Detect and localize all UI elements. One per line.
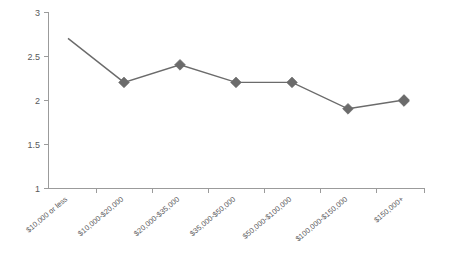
x-tick-label-6: $100,000-$150,000 [294,195,350,244]
data-point-7 [399,96,410,107]
y-tick-label-1: 1 [35,184,40,194]
line-chart: 3 2.5 2 1.5 1 [0,0,449,262]
data-point-5 [343,103,354,114]
data-series-line [68,38,404,108]
y-tick-label-2-5: 2.5 [27,52,40,62]
x-axis-tick-labels: $10,000 or less $10,000-$20,000 $20,000-… [24,194,406,243]
x-tick-label-5: $50,000-$100,000 [241,195,293,241]
x-tick-label-4: $35,000-$50,000 [188,195,237,238]
y-tick-label-2: 2 [35,96,40,106]
y-axis-tick-labels: 3 2.5 2 1.5 1 [27,8,40,194]
y-tick-label-1-5: 1.5 [27,140,40,150]
chart-canvas: 3 2.5 2 1.5 1 [0,0,449,262]
y-tick-label-3: 3 [35,8,40,18]
data-point-4 [287,77,298,88]
x-tick-label-7: $150,000+ [372,194,406,224]
x-tick-label-1: $10,000 or less [24,194,69,234]
data-point-2 [175,59,186,70]
y-axis-ticks [44,13,49,189]
x-axis-ticks [97,189,425,194]
data-point-3 [231,77,242,88]
x-tick-label-3: $20,000-$35,000 [132,195,181,238]
x-tick-label-2: $10,000-$20,000 [76,195,125,238]
